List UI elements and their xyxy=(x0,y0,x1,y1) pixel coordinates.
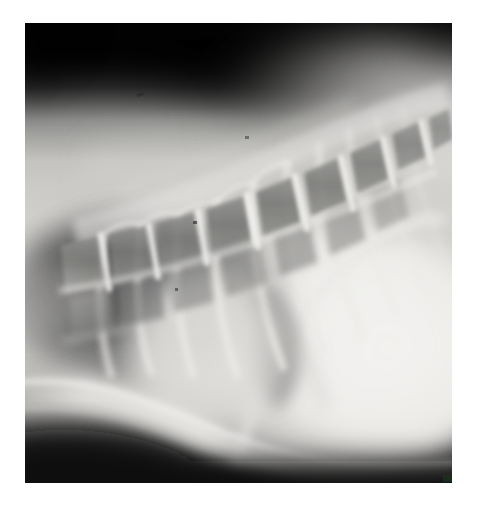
radiograph-image xyxy=(25,23,452,483)
page-root: Lateral thoracic radiograph showing the … xyxy=(0,0,479,505)
film-grain-layer xyxy=(25,23,452,483)
radiograph-canvas xyxy=(25,23,452,483)
image-alt-text: Lateral thoracic radiograph showing the … xyxy=(0,0,1,1)
